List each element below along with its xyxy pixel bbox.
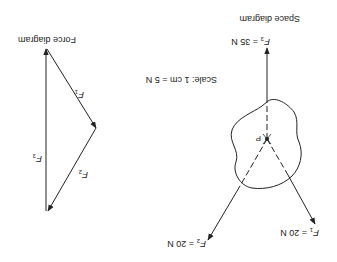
body-outline — [231, 99, 301, 188]
force-diagram: Force diagram F 1 F 2 F 3 — [18, 35, 96, 211]
force-f1-arrow — [288, 175, 315, 224]
scale-label: Scale: 1 cm = 5 N — [146, 75, 217, 85]
vector-f1-label: F 1 — [74, 89, 84, 100]
space-diagram-title: Space diagram — [239, 14, 300, 24]
svg-text:3: 3 — [260, 36, 264, 42]
vector-f2 — [48, 128, 96, 211]
force-f3-label: F 3 = 35 N — [231, 36, 270, 47]
force-f2-label: F 2 = 20 N — [167, 238, 206, 249]
vector-f3-label: F 3 — [32, 153, 42, 164]
force-f1-label: F 1 = 20 N — [280, 227, 319, 238]
svg-text:2: 2 — [78, 169, 82, 175]
svg-text:2: 2 — [196, 238, 200, 244]
force-f2-dashed — [240, 139, 267, 186]
svg-text:= 20 N: = 20 N — [167, 239, 194, 249]
svg-text:3: 3 — [32, 153, 36, 159]
force-diagram-title: Force diagram — [18, 35, 76, 45]
svg-text:1: 1 — [309, 227, 313, 233]
force-f1-dashed — [267, 139, 288, 175]
point-p-label: P — [256, 134, 261, 143]
vector-diagram: Space diagram P F 3 = 35 N F 1 = 20 N F — [0, 0, 337, 262]
space-diagram: Space diagram P F 3 = 35 N F 1 = 20 N F — [167, 14, 319, 249]
vector-f2-label: F 2 — [78, 169, 88, 180]
svg-text:= 35 N: = 35 N — [231, 37, 258, 47]
force-f2-arrow — [208, 186, 240, 240]
vector-f1 — [47, 49, 96, 128]
svg-text:= 20 N: = 20 N — [280, 228, 307, 238]
